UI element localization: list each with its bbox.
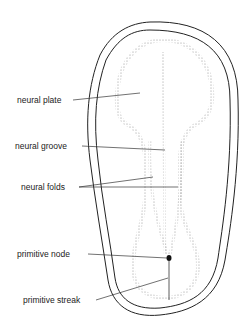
- leader-neural-plate: [73, 93, 140, 100]
- label-neural-groove: neural groove: [15, 141, 67, 151]
- leader-neural-folds-1: [79, 177, 153, 187]
- embryo-diagram: [0, 0, 249, 336]
- label-primitive-streak: primitive streak: [23, 295, 80, 305]
- neural-groove: [163, 52, 165, 255]
- leader-neural-groove: [82, 146, 165, 150]
- leader-primitive-node: [88, 254, 167, 258]
- label-neural-folds: neural folds: [21, 182, 65, 192]
- label-primitive-node: primitive node: [17, 249, 70, 259]
- label-neural-plate: neural plate: [17, 95, 61, 105]
